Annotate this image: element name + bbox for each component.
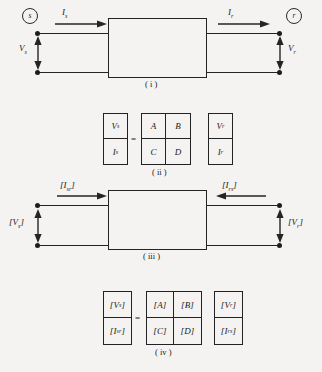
node-label-s: s bbox=[29, 12, 32, 20]
two-port-box-iii bbox=[108, 190, 207, 250]
terminal-dot-receiving-top-iii bbox=[277, 203, 282, 208]
current-arrow-sending-iii bbox=[57, 191, 107, 201]
vector-right-iv: [Vr] [Irs] bbox=[214, 291, 243, 345]
label-sending-voltage-iii: [Vs] bbox=[9, 218, 24, 229]
terminal-dot-receiving-bottom-iii bbox=[277, 243, 282, 248]
caption-iii: ( iii ) bbox=[143, 252, 160, 261]
terminal-dot-sending-top-iii bbox=[35, 203, 40, 208]
matrix-equation-ii: Vs Is = A B C D Vr Ir ( ii ) bbox=[0, 108, 322, 178]
two-port-network-figure: s r Is Ir bbox=[0, 0, 322, 372]
diagram-iii: [Isr] [Irs] [Vs] [Vr] ( iii ) bbox=[0, 183, 322, 278]
wire-bottom-left-iii bbox=[38, 245, 109, 246]
sending-voltage-subscript: s bbox=[25, 49, 27, 55]
current-arrow-receiving-i bbox=[218, 19, 270, 29]
label-receiving-voltage-i: Vr bbox=[288, 44, 296, 55]
wire-bottom-right bbox=[204, 72, 280, 73]
sending-current-subscript: s bbox=[65, 13, 67, 19]
label-receiving-current-i: Ir bbox=[228, 8, 233, 19]
cell-vr-bracketed: [Vr] bbox=[215, 292, 242, 318]
wire-top-left bbox=[38, 33, 109, 34]
terminal-dot-sending-bottom-iii bbox=[35, 243, 40, 248]
wire-top-right-iii bbox=[204, 205, 280, 206]
cell-c-bracketed: [C] bbox=[147, 318, 174, 344]
cell-b-bracketed: [B] bbox=[174, 292, 201, 318]
matrix-equation-iv: [Vs] [Isr] = [A] [B] [C] [D] bbox=[0, 288, 322, 363]
diagram-i: s r Is Ir bbox=[0, 0, 322, 100]
label-receiving-current-iii: [Irs] bbox=[222, 181, 237, 192]
node-label-r: r bbox=[293, 12, 296, 20]
cell-c: C bbox=[142, 139, 166, 164]
cell-vr: Vr bbox=[209, 114, 232, 139]
label-sending-current-i: Is bbox=[62, 8, 67, 19]
receiving-voltage-subscript: r bbox=[294, 49, 296, 55]
wire-top-right bbox=[204, 33, 280, 34]
terminal-dot-sending-bottom bbox=[35, 70, 40, 75]
cell-ir: Ir bbox=[209, 139, 232, 164]
vector-left-iv: [Vs] [Isr] bbox=[103, 291, 132, 345]
label-sending-current-iii: [Isr] bbox=[60, 181, 75, 192]
node-circle-s: s bbox=[22, 8, 38, 24]
wire-bottom-left bbox=[38, 72, 109, 73]
cell-b: B bbox=[166, 114, 190, 139]
caption-iv: ( iv ) bbox=[155, 348, 172, 357]
wire-top-left-iii bbox=[38, 205, 109, 206]
cell-a: A bbox=[142, 114, 166, 139]
equals-sign-iv: = bbox=[135, 314, 140, 323]
current-arrow-receiving-iii bbox=[216, 191, 266, 201]
voltage-arrow-sending-iii bbox=[33, 209, 43, 243]
cell-a-bracketed: [A] bbox=[147, 292, 174, 318]
node-circle-r: r bbox=[286, 8, 302, 24]
abcd-matrix-iv: [A] [B] [C] [D] bbox=[146, 291, 202, 345]
cell-d-bracketed: [D] bbox=[174, 318, 201, 344]
voltage-arrow-sending-i bbox=[33, 36, 43, 70]
abcd-matrix-ii: A B C D bbox=[141, 113, 191, 165]
cell-vs-bracketed: [Vs] bbox=[104, 292, 131, 318]
vector-right-ii: Vr Ir bbox=[208, 113, 233, 165]
cell-isr-bracketed: [Isr] bbox=[104, 318, 131, 344]
two-port-box-i bbox=[108, 18, 207, 78]
cell-vs: Vs bbox=[104, 114, 127, 139]
caption-ii: ( ii ) bbox=[152, 168, 167, 177]
wire-bottom-right-iii bbox=[204, 245, 280, 246]
cell-d: D bbox=[166, 139, 190, 164]
equals-sign-ii: = bbox=[131, 135, 136, 144]
vector-left-ii: Vs Is bbox=[103, 113, 128, 165]
terminal-dot-receiving-bottom bbox=[277, 70, 282, 75]
label-sending-voltage-i: Vs bbox=[19, 44, 27, 55]
voltage-arrow-receiving-iii bbox=[275, 209, 285, 243]
cell-irs-bracketed: [Irs] bbox=[215, 318, 242, 344]
current-arrow-sending-i bbox=[55, 19, 107, 29]
caption-i: ( i ) bbox=[145, 80, 157, 89]
receiving-current-subscript: r bbox=[231, 13, 233, 19]
label-receiving-voltage-iii: [Vr] bbox=[288, 218, 303, 229]
cell-is: Is bbox=[104, 139, 127, 164]
voltage-arrow-receiving-i bbox=[275, 36, 285, 70]
